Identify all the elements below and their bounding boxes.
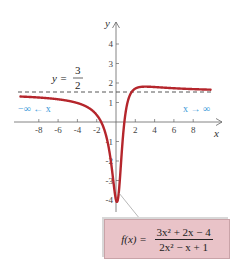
y-tick-label: 3 <box>109 59 114 69</box>
y-axis-label: y <box>104 17 110 29</box>
asymptote-label: y = 3 2 <box>51 64 83 91</box>
x-axis-label: x <box>213 127 219 139</box>
x-tick-label: 4 <box>152 125 157 135</box>
svg-text:3: 3 <box>75 64 81 76</box>
x-tick-label: -2 <box>93 125 101 135</box>
x-tick-label: -6 <box>54 125 62 135</box>
x-ticks: -8-6-4-22468 <box>35 119 196 135</box>
left-limit-label: −∞ ← x <box>18 103 51 114</box>
formula-box: f(x) = 3x² + 2x − 4 2x² − x + 1 <box>104 219 230 259</box>
svg-text:y =: y = <box>51 72 67 84</box>
svg-text:2: 2 <box>75 79 81 91</box>
formula-denominator: 2x² − x + 1 <box>157 240 210 253</box>
x-tick-label: -4 <box>74 125 82 135</box>
y-tick-label: 4 <box>109 39 114 49</box>
y-tick-label: -4 <box>106 195 114 205</box>
x-tick-label: 8 <box>191 125 196 135</box>
x-tick-label: 6 <box>172 125 177 135</box>
formula-lhs: f(x) = <box>121 233 146 245</box>
right-limit-label: x → ∞ <box>183 103 210 114</box>
x-tick-label: 2 <box>133 125 138 135</box>
formula-numerator: 3x² + 2x − 4 <box>155 226 213 240</box>
formula-fraction: 3x² + 2x − 4 2x² − x + 1 <box>155 226 213 253</box>
x-tick-label: -8 <box>35 125 43 135</box>
y-tick-label: 2 <box>109 78 114 88</box>
y-tick-label: 1 <box>109 98 114 108</box>
formula-leader-line <box>119 193 140 219</box>
